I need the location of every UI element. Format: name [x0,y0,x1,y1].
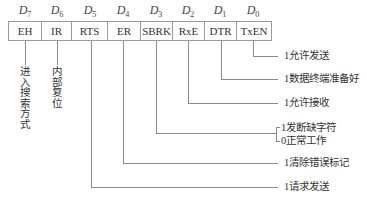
connector-er-v [123,41,124,164]
annotation-rts: 1请求发送 [284,181,329,193]
bit-index: 4 [125,10,129,19]
connector-rxe-h [188,103,278,104]
connector-txen-v [253,41,254,57]
annotation-sbrk-1: 1发断缺字符 [281,122,336,134]
sbrk-bracket [276,127,280,142]
bit-label-d4: D4 [107,3,139,19]
bit-index: 5 [92,10,96,19]
connector-sbrk-h [156,133,276,134]
cell-ir: IR [42,22,72,40]
cell-rxe: RxE [173,22,205,40]
annotation-sbrk-0: 0正常工作 [281,135,326,147]
bit-label-d6: D6 [41,3,73,19]
cell-er: ER [108,22,141,40]
bit-label-d1: D1 [204,3,236,19]
bit-index: 3 [158,10,162,19]
annotation-txen: 1允许发送 [284,50,329,62]
connector-ir [57,41,58,65]
connector-rts-v [91,41,92,188]
cell-sbrk: SBRK [141,22,173,40]
bit-label-d2: D2 [172,3,204,19]
cell-dtr: DTR [205,22,237,40]
annotation-er: 1清除错误标记 [284,157,349,169]
register-table: EH IR RTS ER SBRK RxE DTR TxEN [8,21,272,41]
connector-dtr-h [221,79,278,80]
bit-label-d0: D0 [237,3,269,19]
bit-index: 0 [255,10,259,19]
bit-label-d5: D5 [74,3,106,19]
connector-eh [25,41,26,65]
connector-txen-h [253,56,278,57]
connector-rts-h [91,187,278,188]
bit-label-d3: D3 [140,3,172,19]
bit-index: 7 [27,10,31,19]
bit-label-d7: D7 [9,3,41,19]
bit-index: 6 [59,10,63,19]
cell-eh: EH [9,22,42,40]
connector-sbrk-v [156,41,157,134]
connector-er-h [123,163,278,164]
cell-rts: RTS [72,22,108,40]
annotation-ir: 内部复位 [51,67,63,109]
connector-rxe-v [188,41,189,104]
annotation-dtr: 1数据终端准备好 [284,73,359,85]
bit-index: 1 [222,10,226,19]
connector-dtr-v [221,41,222,80]
bit-index: 2 [190,10,194,19]
cell-txen: TxEN [237,22,271,40]
annotation-rxe: 1允许接收 [284,97,329,109]
annotation-eh: 进入搜索方式 [19,67,31,130]
